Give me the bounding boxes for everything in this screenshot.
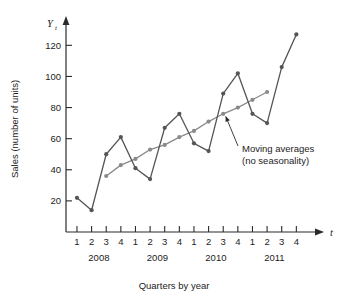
x-tick-label-14: 3: [279, 236, 284, 247]
x-tick-label-15: 4: [294, 236, 299, 247]
x-tick-label-13: 2: [264, 236, 269, 247]
data-point-sales-14: [280, 65, 284, 69]
annotation-moving-averages: Moving averages (no seasonality): [226, 116, 315, 166]
data-point-moving-average-0: [104, 174, 108, 178]
x-axis-title: Quarters by year: [139, 280, 210, 291]
data-point-moving-average-7: [206, 119, 210, 123]
y-axis-variable-subscript: t: [55, 24, 58, 32]
data-point-sales-6: [163, 126, 167, 130]
annotation-label-line1: Moving averages: [242, 143, 315, 154]
x-group-label-2010: 2010: [205, 252, 226, 263]
y-tick-label-40: 40: [50, 164, 61, 175]
x-axis-tick-labels: 1234123412341234: [74, 236, 299, 247]
y-axis-ticks: [66, 45, 72, 201]
data-point-moving-average-5: [177, 135, 181, 139]
data-point-sales-10: [221, 91, 225, 95]
data-point-moving-average-10: [250, 98, 254, 102]
x-tick-label-12: 1: [250, 236, 255, 247]
x-tick-label-2: 3: [104, 236, 109, 247]
x-axis-variable: t: [330, 227, 334, 238]
data-point-sales-0: [75, 196, 79, 200]
y-tick-label-80: 80: [50, 102, 61, 113]
y-tick-label-100: 100: [45, 71, 61, 82]
y-axis-title: Sales (number of units): [9, 80, 20, 178]
data-point-moving-average-8: [221, 112, 225, 116]
x-axis-ticks: [77, 226, 296, 232]
data-point-moving-average-9: [236, 105, 240, 109]
y-axis-variable: Y: [47, 18, 54, 29]
data-point-moving-average-3: [148, 147, 152, 151]
data-point-moving-average-6: [192, 129, 196, 133]
series-group: [75, 32, 299, 212]
x-tick-label-5: 2: [147, 236, 152, 247]
series-line-sales: [77, 34, 296, 210]
y-tick-label-60: 60: [50, 133, 61, 144]
data-point-sales-2: [104, 152, 108, 156]
y-tick-label-120: 120: [45, 40, 61, 51]
x-group-label-2009: 2009: [147, 252, 168, 263]
data-point-sales-9: [206, 149, 210, 153]
x-axis-arrowhead: [315, 229, 324, 236]
data-point-sales-4: [133, 166, 137, 170]
data-point-sales-12: [250, 112, 254, 116]
data-point-moving-average-1: [119, 163, 123, 167]
x-tick-label-1: 2: [89, 236, 94, 247]
y-axis-tick-labels: 20406080100120: [45, 40, 61, 207]
x-tick-label-10: 3: [221, 236, 226, 247]
chart-figure: 20406080100120 Y t Sales (number of unit…: [0, 0, 347, 304]
x-tick-label-8: 1: [191, 236, 196, 247]
data-point-moving-average-2: [133, 157, 137, 161]
x-tick-label-3: 4: [118, 236, 123, 247]
y-axis-arrowhead: [63, 16, 70, 25]
y-axis: 20406080100120 Y t Sales (number of unit…: [9, 16, 72, 232]
x-group-label-2011: 2011: [264, 252, 284, 263]
annotation-label-line2: (no seasonality): [242, 155, 309, 166]
time-series-chart: 20406080100120 Y t Sales (number of unit…: [0, 0, 347, 304]
data-point-sales-13: [265, 121, 269, 125]
x-tick-label-9: 2: [206, 236, 211, 247]
x-tick-label-11: 4: [235, 236, 240, 247]
data-point-sales-1: [89, 208, 93, 212]
x-tick-label-7: 4: [177, 236, 182, 247]
x-tick-label-4: 1: [133, 236, 138, 247]
data-point-moving-average-4: [163, 143, 167, 147]
data-point-sales-15: [294, 32, 298, 36]
x-axis: 1234123412341234 2008200920102011 t Quar…: [66, 226, 334, 291]
x-axis-group-labels: 2008200920102011: [88, 252, 284, 263]
data-point-sales-11: [236, 71, 240, 75]
data-point-sales-3: [119, 135, 123, 139]
data-point-sales-5: [148, 177, 152, 181]
y-tick-label-20: 20: [50, 195, 61, 206]
x-tick-label-6: 3: [162, 236, 167, 247]
x-group-label-2008: 2008: [88, 252, 109, 263]
data-point-moving-average-11: [265, 90, 269, 94]
x-tick-label-0: 1: [74, 236, 79, 247]
data-point-sales-7: [177, 112, 181, 116]
data-point-sales-8: [192, 141, 196, 145]
